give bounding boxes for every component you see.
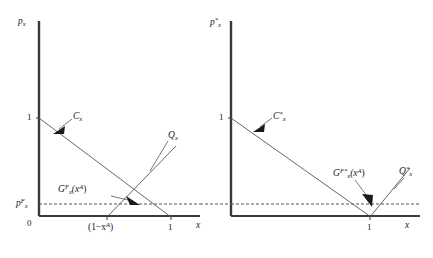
home-cx-leader <box>59 119 72 129</box>
foreign-xtick-label-1: 1 <box>367 222 372 232</box>
economics-figure: px 1 pFx 0 (1−xA) 1 x Cx Qx GFx(xA) p*x … <box>0 0 433 258</box>
home-ytick-label-1: 1 <box>27 112 32 122</box>
foreign-qx-leader <box>394 178 404 189</box>
foreign-y-axis-label: p*x <box>210 17 221 28</box>
home-origin-label: 0 <box>27 218 32 228</box>
foreign-cx-arrowhead <box>253 124 265 132</box>
home-curve-label-cx: Cx <box>73 112 82 122</box>
panel-foreign <box>200 21 420 220</box>
home-price-f-label: pFx <box>16 198 28 209</box>
foreign-cx-leader <box>260 118 272 127</box>
foreign-curve-label-cx-star: C*x <box>273 111 286 122</box>
home-xtick-label-1-minus-xa: (1−xA) <box>88 222 113 232</box>
figure-canvas <box>0 0 433 258</box>
home-annotation-gxf: GFx(xA) <box>58 184 86 195</box>
foreign-curve-label-qx-star: Q*x <box>399 166 412 177</box>
foreign-ytick-label-1: 1 <box>219 112 224 122</box>
home-qx-leader <box>150 141 168 171</box>
home-curve-qx <box>107 146 176 217</box>
home-gx-arrowhead <box>126 196 140 205</box>
foreign-gx-arrowhead <box>362 194 373 207</box>
home-curve-label-qx: Qx <box>168 131 178 141</box>
foreign-x-axis-label: x <box>405 221 409 231</box>
home-xtick-label-1: 1 <box>168 222 173 232</box>
home-y-axis-label: px <box>18 17 26 27</box>
foreign-annotation-gxf-star: GF*x(xA) <box>333 168 365 179</box>
foreign-gx-leader <box>355 180 367 196</box>
home-x-axis-label: x <box>196 221 200 231</box>
